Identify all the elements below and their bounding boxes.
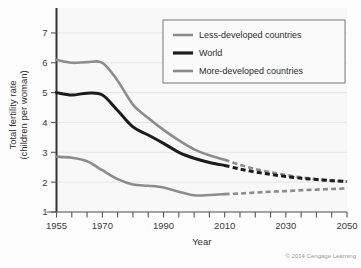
x-tick-label-2030: 2030 bbox=[275, 220, 296, 231]
y-axis-title-line1: Total fertility rate bbox=[7, 80, 18, 149]
x-tick-label-2010: 2010 bbox=[214, 220, 235, 231]
legend: Less-developed countriesWorldMore-develo… bbox=[163, 20, 345, 83]
y-tick-label-7: 7 bbox=[42, 27, 47, 38]
x-tick-label-1990: 1990 bbox=[153, 220, 174, 231]
y-tick-label-5: 5 bbox=[42, 87, 47, 98]
x-axis-ticks: 195519701990201020302050 bbox=[46, 212, 358, 231]
legend-label-more-developed-countries: More-developed countries bbox=[199, 66, 304, 76]
y-tick-label-6: 6 bbox=[42, 57, 47, 68]
fertility-rate-chart-figure: 1234567195519701990201020302050YearTotal… bbox=[0, 0, 361, 268]
y-tick-label-3: 3 bbox=[42, 147, 47, 158]
copyright-credit: © 2014 Cengage Learning bbox=[286, 253, 356, 259]
y-axis-title: Total fertility rate(children per woman) bbox=[7, 70, 29, 159]
x-axis-title: Year bbox=[192, 236, 211, 247]
y-axis-ticks: 1234567 bbox=[42, 27, 56, 217]
legend-label-world: World bbox=[199, 48, 222, 58]
y-axis-title-line2: (children per woman) bbox=[18, 70, 29, 159]
y-tick-label-1: 1 bbox=[42, 206, 47, 217]
x-tick-label-2050: 2050 bbox=[336, 220, 357, 231]
y-tick-label-2: 2 bbox=[42, 177, 47, 188]
legend-label-less-developed-countries: Less-developed countries bbox=[199, 30, 302, 40]
x-tick-label-1970: 1970 bbox=[92, 220, 113, 231]
y-tick-label-4: 4 bbox=[42, 117, 47, 128]
chart-plot-area: 1234567195519701990201020302050YearTotal… bbox=[0, 0, 361, 268]
x-tick-label-1955: 1955 bbox=[46, 220, 67, 231]
